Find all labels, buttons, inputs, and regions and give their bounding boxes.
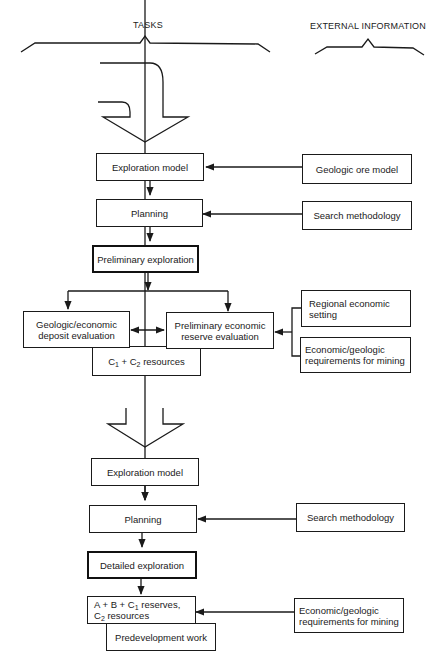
preliminary-economic-evaluation-box: Preliminary economicreserve evaluation: [166, 312, 274, 349]
planning-label: Planning: [131, 208, 168, 219]
geologic-economic-evaluation-label: Geologic/economicdeposit evaluation: [36, 319, 117, 341]
search-methodology-2-label: Search methodology: [307, 512, 394, 523]
economic-geologic-requirements-label: Economic/geologicrequirements for mining: [305, 344, 405, 366]
resources-label: C1 + C2 resources: [108, 356, 185, 367]
reserves-resources-box: A + B + C1 reserves,C2 resources: [87, 596, 196, 624]
external-information-header: EXTERNAL INFORMATION: [310, 21, 426, 31]
geologic-economic-evaluation-box: Geologic/economicdeposit evaluation: [23, 311, 130, 348]
geologic-ore-model-label: Geologic ore model: [316, 164, 398, 175]
detailed-exploration-box: Detailed exploration: [87, 551, 197, 579]
detailed-exploration-label: Detailed exploration: [100, 560, 184, 571]
preliminary-exploration-label: Preliminary exploration: [97, 254, 194, 265]
preliminary-economic-evaluation-label: Preliminary economicreserve evaluation: [175, 320, 266, 342]
economic-geologic-requirements-box: Economic/geologicrequirements for mining: [300, 337, 411, 373]
search-methodology-box: Search methodology: [302, 201, 412, 230]
exploration-model-2-box: Exploration model: [91, 458, 199, 486]
planning-2-box: Planning: [89, 505, 197, 533]
tasks-header: TASKS: [133, 20, 163, 30]
planning-box: Planning: [96, 199, 203, 227]
planning-2-label: Planning: [125, 514, 162, 525]
exploration-model-box: Exploration model: [96, 153, 204, 181]
regional-economic-setting-box: Regional economicsetting: [301, 290, 411, 327]
geologic-ore-model-box: Geologic ore model: [302, 154, 412, 184]
preliminary-exploration-box: Preliminary exploration: [92, 245, 199, 273]
reserves-resources-label: A + B + C1 reserves,C2 resources: [94, 599, 180, 621]
exploration-model-label: Exploration model: [112, 162, 188, 173]
resources-box: C1 + C2 resources: [92, 346, 201, 376]
exploration-model-2-label: Exploration model: [107, 467, 183, 478]
external-brace: [315, 39, 424, 55]
search-methodology-label: Search methodology: [313, 210, 400, 221]
predevelopment-work-box: Predevelopment work: [106, 623, 216, 651]
big-curved-arrow: [98, 63, 188, 142]
regional-economic-setting-label: Regional economicsetting: [309, 298, 390, 320]
economic-geologic-requirements-2-label: Economic/geologicrequirements for mining: [299, 605, 399, 627]
search-methodology-2-box: Search methodology: [296, 503, 405, 532]
predevelopment-work-label: Predevelopment work: [115, 632, 207, 643]
economic-geologic-requirements-2-box: Economic/geologicrequirements for mining: [294, 598, 404, 633]
